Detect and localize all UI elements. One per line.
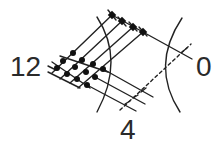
label-zero: 0 (196, 53, 212, 81)
diagram-canvas: 12 0 4 (0, 0, 224, 154)
label-twelve: 12 (10, 53, 41, 81)
top-chain (112, 15, 143, 32)
inner-arc (97, 17, 111, 112)
upper-line-1 (52, 15, 112, 73)
upper-line-2 (60, 21, 122, 79)
tick (182, 48, 187, 52)
upper-line-3 (70, 27, 133, 83)
dashed-line (120, 44, 191, 110)
tick (125, 101, 130, 104)
upper-line-4 (78, 32, 143, 88)
lower-line-1 (103, 69, 153, 97)
label-four: 4 (120, 116, 136, 144)
chain-to-zero (143, 32, 192, 59)
lower-line-3 (87, 85, 136, 111)
